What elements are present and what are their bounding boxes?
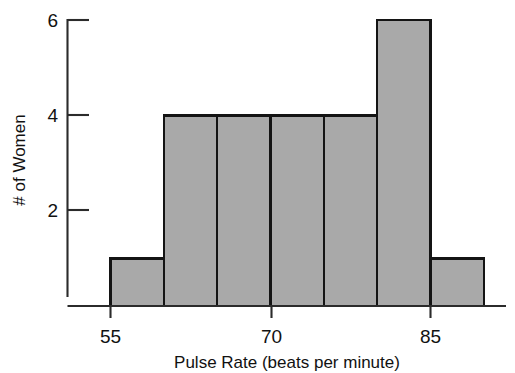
y-tick-label-2: 2 (47, 200, 58, 221)
y-tick-label-6: 6 (47, 10, 58, 31)
histogram-bar (377, 20, 430, 306)
x-tick-label-70: 70 (261, 326, 282, 347)
histogram-bar (111, 258, 164, 306)
y-tick-label-4: 4 (47, 105, 58, 126)
x-tick-label-85: 85 (420, 326, 441, 347)
histogram-bar (217, 115, 270, 306)
histogram-bar (271, 115, 324, 306)
y-axis-title: # of Women (10, 114, 29, 205)
histogram-bar (324, 115, 377, 306)
histogram-bar (431, 258, 484, 306)
histogram-figure: 6 4 2 55 70 85 # of Women Pulse Rate (be… (0, 0, 515, 373)
x-axis-title: Pulse Rate (beats per minute) (174, 353, 400, 372)
histogram-bar (164, 115, 217, 306)
x-tick-label-55: 55 (100, 326, 121, 347)
histogram-plot: 6 4 2 55 70 85 # of Women Pulse Rate (be… (0, 0, 515, 373)
